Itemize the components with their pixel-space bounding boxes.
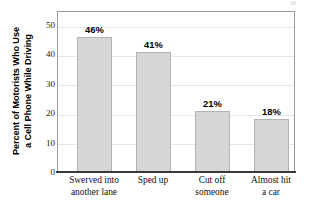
bar-almost-hit-a-car[interactable] <box>254 119 289 172</box>
corner-artifact <box>291 1 296 5</box>
y-axis-title-line-2: a Cell Phone While Driving <box>23 34 34 148</box>
bar-value-label-3: 21% <box>190 99 235 109</box>
y-axis-title: Percent of Motorists Who Use a Cell Phon… <box>2 8 42 174</box>
category-label-1-line-2: another lane <box>49 187 139 199</box>
category-label-4-line-1: Almost hit <box>226 175 313 187</box>
bar-value-label-2: 41% <box>131 40 176 50</box>
y-tick-label-40: 40 <box>39 50 55 59</box>
y-axis-title-line-1: Percent of Motorists Who Use <box>11 27 22 155</box>
y-tick-label-20: 20 <box>39 109 55 118</box>
bar-swerved-into-another-lane[interactable] <box>77 37 112 172</box>
bar-cut-off-someone[interactable] <box>195 111 230 173</box>
y-tick-label-10: 10 <box>39 139 55 148</box>
x-axis-category-labels: Swerved into another lane Sped up Cut of… <box>57 175 295 207</box>
plot-area: 46% 41% 21% 18% <box>57 11 295 172</box>
bar-sped-up[interactable] <box>136 52 171 172</box>
x-axis-line <box>56 171 296 173</box>
bar-value-label-1: 46% <box>72 25 117 35</box>
bar-value-label-4: 18% <box>249 107 294 117</box>
plot-inner: 46% 41% 21% 18% <box>58 12 294 172</box>
category-label-4-line-2: a car <box>226 187 313 199</box>
y-tick-label-30: 30 <box>39 80 55 89</box>
y-tick-label-50: 50 <box>39 21 55 30</box>
bar-chart: Percent of Motorists Who Use a Cell Phon… <box>0 0 313 209</box>
